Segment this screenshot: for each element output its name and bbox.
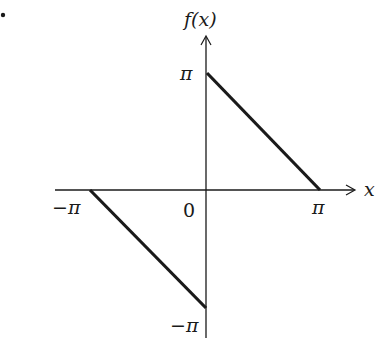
function-plot: f(x) x π −π −π 0 π — [0, 0, 380, 338]
y-tick-neg-pi: −π — [170, 314, 199, 336]
origin-label: 0 — [183, 199, 195, 221]
segment-positive — [207, 73, 320, 190]
x-axis-label: x — [364, 178, 375, 200]
x-tick-neg-pi: −π — [52, 196, 81, 218]
x-tick-pi: π — [311, 196, 325, 218]
y-axis-label: f(x) — [182, 8, 217, 30]
x-axis — [55, 185, 355, 195]
y-tick-pi: π — [179, 62, 193, 84]
bullet-marker — [1, 13, 5, 17]
y-axis — [201, 36, 211, 338]
